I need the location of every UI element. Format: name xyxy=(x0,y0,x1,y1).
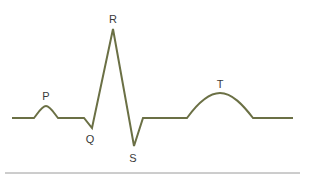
label-s: S xyxy=(129,152,136,164)
ecg-trace xyxy=(12,29,293,146)
label-q: Q xyxy=(86,133,95,145)
label-r: R xyxy=(109,13,117,25)
label-p: P xyxy=(42,90,49,102)
label-t: T xyxy=(217,78,224,90)
ecg-diagram: P Q R S T xyxy=(0,0,309,175)
